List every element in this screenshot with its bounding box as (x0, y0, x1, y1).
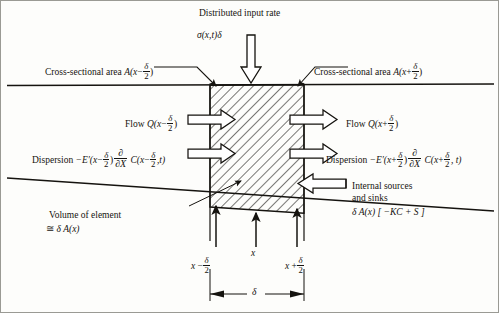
area-left-sign: − (137, 67, 142, 77)
flow-left-head: Q(x (147, 119, 161, 129)
flow-left-text: Flow (125, 119, 145, 129)
flow-right-text: Flow (346, 119, 366, 129)
area-right-tail: ) (419, 67, 422, 77)
flow-left-fraction: δ2 (167, 114, 173, 132)
partial-derivative-operator-right: ∂∂X (408, 148, 421, 170)
distributed-input-arrow (241, 35, 261, 83)
area-right-fraction: δ2 (412, 62, 418, 80)
disp-right-conc-sign: + (438, 155, 443, 165)
width-dimension-label: δ (252, 288, 256, 298)
disp-right-conc-fraction: δ2 (444, 151, 450, 169)
area-right-text: Cross-sectional area (314, 67, 391, 77)
axis-left-fraction: δ2 (203, 256, 209, 274)
area-left-tail: ) (150, 67, 153, 77)
area-right-expr-head: A(x (393, 67, 406, 77)
distributed-input-title: Distributed input rate (199, 9, 280, 19)
axis-right-sign: + (292, 261, 297, 271)
volume-expression-text: δ A(x) (56, 224, 79, 234)
cross-sectional-area-left: Cross-sectional area A(x−δ2) (45, 62, 153, 80)
disp-right-sign: + (391, 155, 396, 165)
flow-right-fraction: δ2 (388, 114, 394, 132)
axis-left-sign: − (198, 261, 203, 271)
area-left-expr-head: A(x (124, 67, 137, 77)
flow-right-tail: ) (395, 119, 398, 129)
dispersion-inflow-label: Dispersion −E′(x−δ2)∂∂X C(x−δ2,t) (32, 148, 165, 170)
disp-left-conc-head: C(x (131, 155, 145, 165)
width-dimension-line (210, 288, 304, 300)
dispersion-outflow-label: Dispersion −E′(x+δ2)∂∂X C(x+δ2, t) (326, 148, 462, 170)
area-right-sign: + (406, 67, 411, 77)
approx-equal-symbol: ≅ (46, 224, 54, 234)
partial-derivative-operator-left: ∂∂X (114, 148, 127, 170)
disp-left-fraction: δ2 (103, 151, 109, 169)
source-term-label: σ(x,t)δ (197, 31, 222, 41)
disp-left-conc-tail: ,t) (157, 155, 165, 165)
disp-left-text: Dispersion (32, 155, 73, 165)
flow-left-tail: ) (174, 119, 177, 129)
disp-left-close: ) (110, 155, 113, 165)
axis-right-fraction: δ2 (297, 256, 303, 274)
internal-sources-line1: Internal sources (352, 182, 412, 192)
flow-inflow-label: Flow Q(x−δ2) (125, 114, 177, 132)
internal-sources-arrow (298, 174, 346, 193)
flow-right-sign: + (382, 119, 387, 129)
volume-of-element-label: Volume of element (49, 211, 121, 221)
cross-sectional-area-right: Cross-sectional area A(x+δ2) (314, 62, 422, 80)
disp-left-coeff: −E′(x (76, 155, 98, 165)
volume-of-element-expression: ≅ δ A(x) (46, 225, 80, 235)
disp-right-fraction: δ2 (397, 151, 403, 169)
disp-left-conc-sign: − (144, 155, 149, 165)
axis-center-label: x (251, 249, 255, 259)
flow-outflow-label: Flow Q(x+δ2) (346, 114, 398, 132)
disp-left-sign: − (97, 155, 102, 165)
disp-left-conc-fraction: δ2 (150, 151, 156, 169)
internal-sources-expression: δ A(x) [ −KC + S ] (352, 208, 425, 218)
disp-right-text: Dispersion (326, 155, 367, 165)
control-volume-element (210, 85, 304, 241)
disp-right-conc-head: C(x (425, 155, 439, 165)
disp-right-coeff: −E′(x (370, 155, 392, 165)
internal-sources-line2: and sinks (352, 194, 388, 204)
disp-right-conc-tail: , t) (451, 155, 462, 165)
leader-area-left (154, 67, 216, 86)
area-left-fraction: δ2 (143, 62, 149, 80)
axis-right-station-label: x +δ2 (285, 256, 304, 274)
flow-right-head: Q(x (368, 119, 382, 129)
diagram-canvas: Distributed input rate σ(x,t)δ Cross-sec… (0, 0, 499, 313)
axis-right-head: x (285, 261, 289, 271)
axis-left-station-label: x −δ2 (191, 256, 210, 274)
flow-left-sign: − (161, 119, 166, 129)
disp-right-close: ) (404, 155, 407, 165)
axis-left-head: x (191, 261, 195, 271)
area-left-text: Cross-sectional area (45, 67, 122, 77)
